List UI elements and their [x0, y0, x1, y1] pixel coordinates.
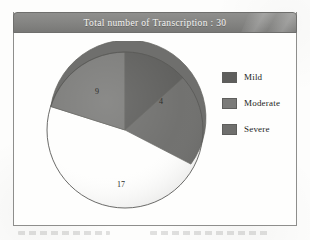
pie-label-moderate: 9: [95, 87, 99, 96]
legend-swatch-severe: [222, 124, 237, 135]
legend-label-moderate: Moderate: [244, 98, 280, 108]
pie-label-mild: 4: [159, 97, 163, 106]
legend-swatch-mild: [222, 72, 237, 83]
chart-legend: Mild Moderate Severe: [222, 70, 298, 148]
pie-chart: 4 9 17: [36, 41, 214, 219]
legend-item-severe[interactable]: Severe: [222, 122, 298, 136]
chart-title: Total number of Transcription : 30: [84, 18, 227, 28]
title-gloss-highlight: [238, 12, 297, 33]
pie-label-severe: 17: [117, 180, 125, 189]
legend-label-mild: Mild: [244, 72, 262, 82]
legend-swatch-moderate: [222, 98, 237, 109]
legend-item-mild[interactable]: Mild: [222, 70, 298, 84]
chart-title-bar: Total number of Transcription : 30: [13, 12, 297, 33]
chart-panel: 4 9 17 Mild Moderate Severe: [13, 12, 297, 226]
pie-shading-overlay: [47, 52, 203, 208]
legend-label-severe: Severe: [244, 124, 270, 134]
legend-item-moderate[interactable]: Moderate: [222, 96, 298, 110]
plot-area: 4 9 17 Mild Moderate Severe: [14, 33, 298, 226]
